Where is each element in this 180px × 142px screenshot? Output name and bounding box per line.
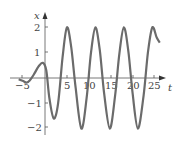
y-tick-label: 1	[34, 47, 40, 58]
chart: t x −5 5 10 15 20 25 2 1 −1 −2	[0, 0, 180, 142]
y-tick-label: −1	[27, 98, 42, 109]
x-tick-label: 20	[127, 80, 140, 91]
x-axis-label: t	[168, 82, 173, 93]
y-tick-label: 2	[34, 22, 40, 33]
y-tick-label: −2	[27, 122, 42, 133]
y-axis-arrow-icon	[43, 12, 48, 19]
y-axis-label: x	[34, 10, 40, 21]
x-tick-label: 25	[148, 80, 161, 91]
y-tick-labels: 2 1 −1 −2	[27, 22, 42, 133]
x-tick-label: 5	[64, 80, 70, 91]
